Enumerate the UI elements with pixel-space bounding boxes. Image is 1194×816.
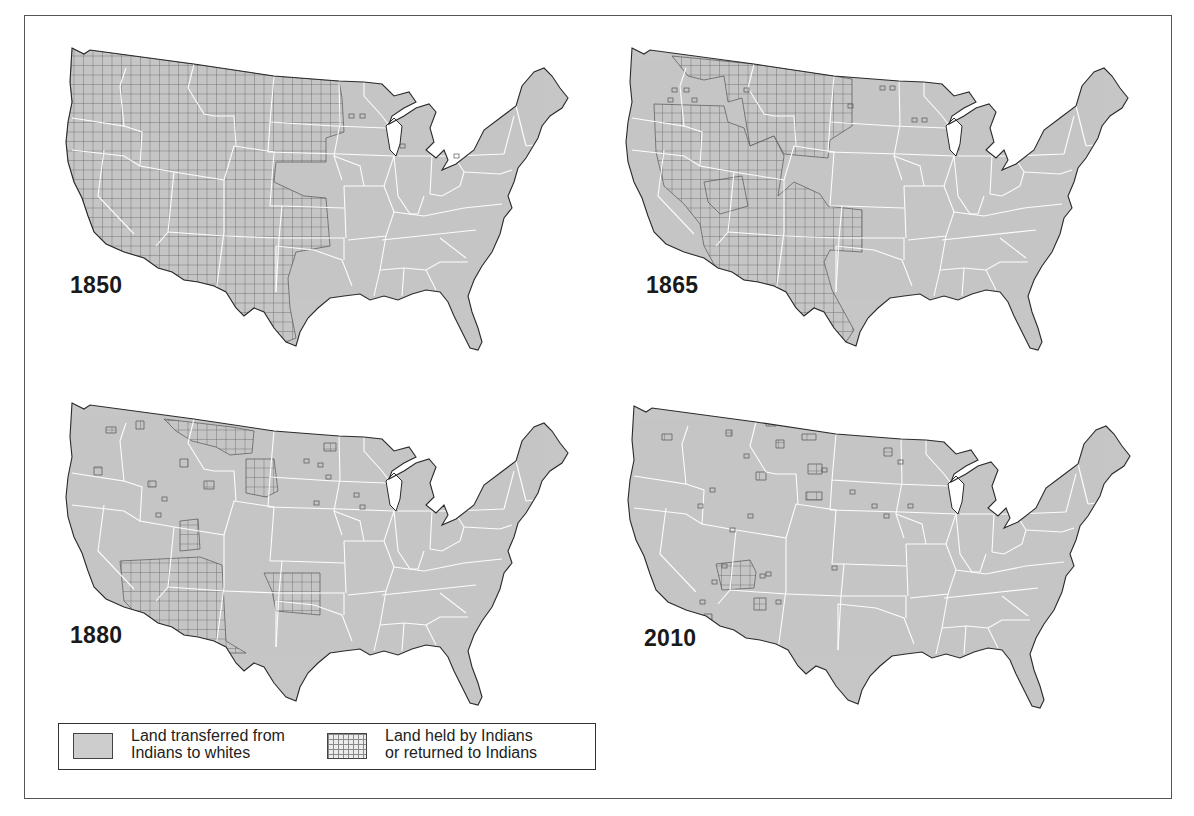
indian-held-region — [662, 434, 672, 440]
us-map-1850 — [60, 40, 580, 370]
legend-label-indian-held: Land held by Indians or returned to Indi… — [385, 727, 537, 761]
us-outline — [628, 406, 1130, 708]
us-map-1865 — [620, 40, 1140, 370]
year-label: 1880 — [70, 622, 122, 649]
indian-held-region — [94, 467, 102, 475]
indian-held-region — [180, 459, 188, 467]
year-label: 1865 — [646, 272, 698, 299]
indian-held-region — [754, 598, 766, 610]
legend-label-transferred: Land transferred from Indians to whites — [131, 727, 285, 761]
indian-held-region — [802, 434, 816, 440]
indian-held-region — [148, 481, 156, 487]
indian-held-region — [136, 421, 144, 429]
year-label: 2010 — [644, 625, 696, 652]
indian-held-region — [884, 448, 892, 456]
year-label: 1850 — [70, 272, 122, 299]
map-panel-1850: 1850 — [60, 40, 580, 370]
us-outline — [66, 48, 568, 350]
indian-held-region — [806, 492, 822, 500]
indian-held-region — [756, 472, 766, 480]
indian-held-region — [808, 464, 822, 474]
map-panel-2010: 2010 — [610, 400, 1150, 730]
map-panel-1865: 1865 — [610, 40, 1150, 370]
map-panel-1880: 1880 — [60, 400, 580, 730]
us-map-1880 — [60, 395, 580, 725]
indian-held-region — [106, 427, 116, 433]
us-outline — [626, 48, 1128, 350]
legend-swatch-transferred — [73, 733, 113, 759]
indian-held-region — [776, 440, 784, 448]
legend-swatch-indian-held — [327, 733, 367, 759]
indian-held-region — [180, 519, 200, 551]
legend: Land transferred from Indians to whites … — [58, 723, 596, 770]
indian-held-region — [324, 443, 336, 451]
indian-held-region — [726, 430, 732, 436]
us-outline — [66, 403, 568, 705]
indian-held-region — [204, 481, 214, 489]
indian-held-region — [246, 459, 278, 497]
us-map-2010 — [622, 398, 1142, 728]
